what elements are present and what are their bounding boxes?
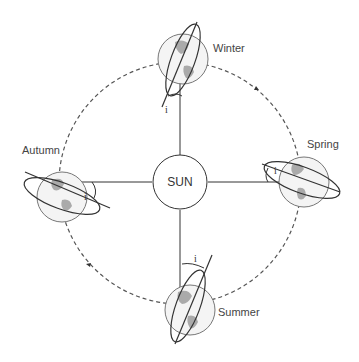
svg-text:i: i <box>84 191 87 202</box>
orbit-diagram: SUN i Winter i Spring i Summer <box>0 0 359 362</box>
earth-spring: i <box>260 154 344 207</box>
season-label-summer: Summer <box>218 306 260 318</box>
earth-summer: i <box>164 253 215 346</box>
earth-autumn: i <box>20 170 110 222</box>
season-label-winter: Winter <box>213 42 245 54</box>
orbit-arrow-icon <box>86 263 91 267</box>
season-label-spring: Spring <box>307 138 339 150</box>
earth-winter: i <box>158 20 208 115</box>
orbit-arrow-icon <box>254 86 259 90</box>
svg-text:i: i <box>165 104 168 115</box>
svg-text:i: i <box>274 165 277 176</box>
sun-label: SUN <box>167 175 192 189</box>
season-label-autumn: Autumn <box>22 144 60 156</box>
svg-text:i: i <box>194 253 197 264</box>
